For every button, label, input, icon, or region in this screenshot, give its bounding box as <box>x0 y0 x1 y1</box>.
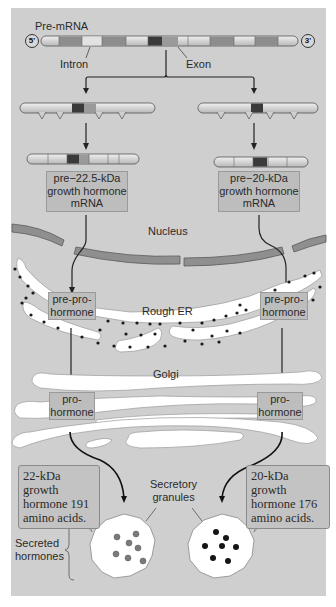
split-arrow <box>86 50 254 90</box>
left-prohormone-line-2: hormone <box>50 406 94 419</box>
left-callout-22kda: 22-kDa growth hormone 191 amino acids. <box>18 465 100 529</box>
right-callout-line-2: hormone 176 <box>251 497 325 511</box>
left-preprohormone-line-1: pre-pro- <box>49 293 95 306</box>
growth-hormone-splicing-diagram: Pre-mRNA 5' 3' Intron Exon pre−22.5-kDa … <box>0 0 336 607</box>
golgi-label: Golgi <box>153 368 179 381</box>
right-mrna-line-3: mRNA <box>219 197 299 210</box>
left-callout-line-2: hormone 191 <box>23 497 95 511</box>
exon-label: Exon <box>186 58 211 71</box>
rough-er-label: Rough ER <box>142 305 193 318</box>
left-preprohormone-box: pre-pro- hormone <box>48 292 96 320</box>
right-callout-20kda: 20-kDa growth hormone 176 amino acids. <box>246 465 330 529</box>
right-preprohormone-line-2: hormone <box>261 306 307 319</box>
secreted-line-1: Secreted <box>15 537 64 550</box>
exon-pointer <box>178 47 187 58</box>
right-prohormone-line-1: pro- <box>258 393 302 406</box>
left-spliced-mrna <box>27 154 139 164</box>
right-callout-line-1: 20-kDa growth <box>251 469 325 497</box>
right-mrna-line-2: growth hormone <box>219 185 299 198</box>
left-callout-line-1: 22-kDa growth <box>23 469 95 497</box>
right-prohormone-box: pro- hormone <box>257 392 303 420</box>
secreted-hormones-label: Secreted hormones <box>15 537 64 563</box>
three-prime-end: 3' <box>301 34 315 48</box>
right-spliced-mrna <box>214 157 308 167</box>
left-splicing-intermediate <box>20 103 155 119</box>
five-prime-cap: 5' <box>25 34 39 48</box>
right-preprohormone-box: pre-pro- hormone <box>260 292 308 320</box>
left-mrna-label-box: pre−22.5-kDa growth hormone mRNA <box>46 171 128 212</box>
left-mrna-line-3: mRNA <box>47 197 127 210</box>
granules-line-2: granules <box>150 491 197 504</box>
granule-20kda <box>188 514 254 578</box>
left-prohormone-box: pro- hormone <box>49 392 95 420</box>
secretory-granules-label: Secretory granules <box>150 478 197 504</box>
intron-label: Intron <box>60 58 88 71</box>
right-splicing-intermediate <box>198 103 318 119</box>
left-callout-line-3: amino acids. <box>23 511 95 525</box>
left-prohormone-line-1: pro- <box>50 393 94 406</box>
intron-pointer <box>86 47 90 58</box>
left-mrna-line-1: pre−22.5-kDa <box>47 172 127 185</box>
nucleus-label: Nucleus <box>148 225 188 238</box>
left-mrna-line-2: growth hormone <box>47 185 127 198</box>
granules-line-1: Secretory <box>150 478 197 491</box>
secreted-hormones-brace <box>65 523 74 580</box>
secreted-line-2: hormones <box>15 550 64 563</box>
premrna-bar <box>41 36 298 46</box>
left-preprohormone-line-2: hormone <box>49 306 95 319</box>
right-preprohormone-line-1: pre-pro- <box>261 293 307 306</box>
right-mrna-line-1: pre−20-kDa <box>219 172 299 185</box>
right-callout-line-3: amino acids. <box>251 511 325 525</box>
right-prohormone-line-2: hormone <box>258 406 302 419</box>
premrna-label: Pre-mRNA <box>35 20 88 33</box>
right-mrna-label-box: pre−20-kDa growth hormone mRNA <box>218 171 300 212</box>
